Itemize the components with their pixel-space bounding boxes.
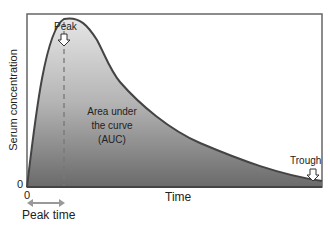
auc-line-2: the curve <box>72 119 152 133</box>
x-origin-label: 0 <box>24 189 30 201</box>
y-axis-label: Serum concentration <box>7 45 19 155</box>
auc-line-1: Area under <box>72 105 152 119</box>
x-axis-label: Time <box>165 190 191 204</box>
auc-line-3: (AUC) <box>72 133 152 147</box>
peak-time-arrow-icon <box>27 199 65 207</box>
peak-time-label: Peak time <box>22 208 75 222</box>
auc-area <box>27 18 322 187</box>
peak-label: Peak <box>54 21 77 32</box>
auc-label: Area under the curve (AUC) <box>72 105 152 147</box>
y-origin-label: 0 <box>17 178 23 190</box>
trough-label: Trough <box>290 155 321 166</box>
